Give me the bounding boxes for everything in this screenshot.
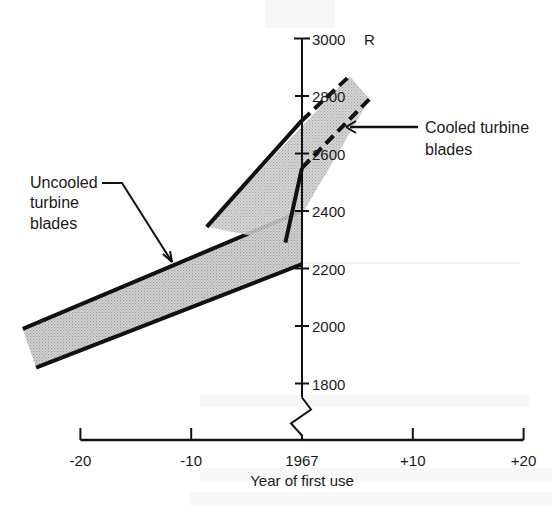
y-tick-label: 2600 (312, 146, 345, 163)
axes: 3000280026002400220020001800R-20-101967+… (70, 31, 537, 490)
cooled-label-line-1: Cooled turbine (425, 119, 529, 136)
annotation-cooled: Cooled turbine blades (346, 119, 529, 158)
x-axis-title: Year of first use (250, 472, 354, 489)
y-tick-label: 2200 (312, 261, 345, 278)
turbine-temperature-chart: 3000280026002400220020001800R-20-101967+… (0, 0, 552, 515)
uncooled-label-line-1: Uncooled (30, 174, 98, 191)
x-tick-label: +10 (400, 452, 425, 469)
x-tick-label: -10 (180, 452, 202, 469)
annotation-uncooled: Uncooled turbine blades (30, 174, 172, 262)
uncooled-pointer-line (102, 183, 172, 262)
y-tick-label: 3000 (312, 31, 345, 48)
x-tick-label: +20 (511, 452, 536, 469)
uncooled-label-line-2: turbine (30, 194, 79, 211)
y-tick-label: 2400 (312, 203, 345, 220)
y-tick-label: 1800 (312, 376, 345, 393)
y-unit-label: R (364, 31, 375, 48)
x-tick-label: 1967 (285, 452, 318, 469)
uncooled-label-line-3: blades (30, 215, 77, 232)
y-tick-label: 2800 (312, 88, 345, 105)
x-tick-label: -20 (70, 452, 92, 469)
cooled-label-line-2: blades (425, 141, 472, 158)
y-tick-label: 2000 (312, 318, 345, 335)
